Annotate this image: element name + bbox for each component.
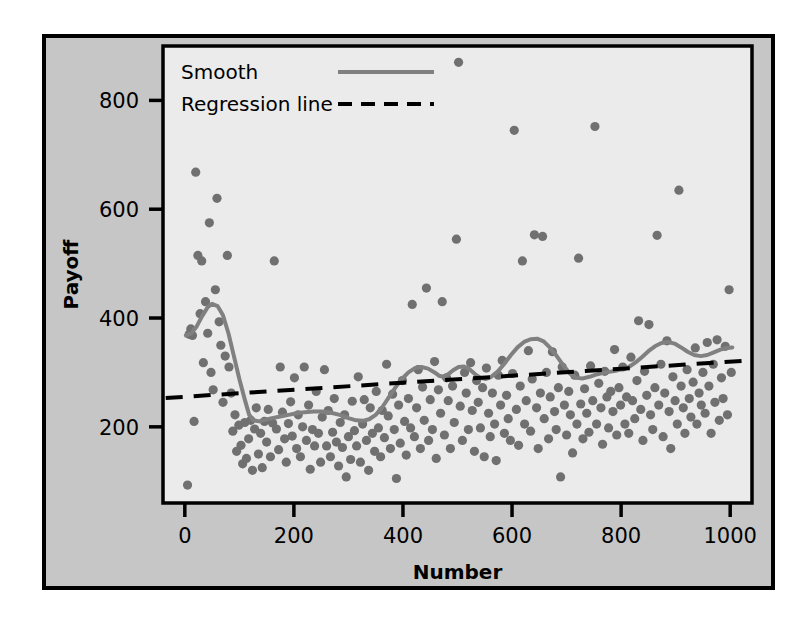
data-point	[550, 407, 559, 416]
data-point	[258, 463, 267, 472]
data-point	[386, 444, 395, 453]
data-point	[496, 400, 505, 409]
data-point	[320, 365, 329, 374]
data-point	[392, 474, 401, 483]
data-point	[306, 465, 315, 474]
data-point	[580, 384, 589, 393]
data-point	[300, 362, 309, 371]
data-point	[628, 396, 637, 405]
data-point	[715, 416, 724, 425]
x-tick-label: 200	[274, 524, 314, 548]
data-point	[522, 396, 531, 405]
data-point	[183, 480, 192, 489]
data-point	[484, 409, 493, 418]
x-tick-label: 400	[383, 524, 423, 548]
data-point	[199, 358, 208, 367]
data-point	[342, 472, 351, 481]
data-point	[701, 409, 710, 418]
data-point	[434, 385, 443, 394]
data-point	[326, 452, 335, 461]
data-point	[552, 425, 561, 434]
data-point	[384, 411, 393, 420]
data-point	[352, 441, 361, 450]
data-point	[620, 420, 629, 429]
data-point	[698, 368, 707, 377]
data-point	[536, 389, 545, 398]
data-point	[191, 168, 200, 177]
data-point	[488, 389, 497, 398]
data-point	[723, 410, 732, 419]
y-axis: 200400600800	[99, 89, 163, 439]
data-point	[248, 466, 257, 475]
data-point	[506, 436, 515, 445]
data-point	[574, 254, 583, 263]
data-point	[402, 451, 411, 460]
data-point	[724, 285, 733, 294]
data-point	[659, 432, 668, 441]
data-point	[546, 392, 555, 401]
data-point	[562, 430, 571, 439]
data-point	[338, 443, 347, 452]
legend-label-1: Regression line	[181, 92, 333, 116]
data-point	[592, 420, 601, 429]
data-point	[502, 391, 511, 400]
data-point	[636, 405, 645, 414]
data-point	[516, 381, 525, 390]
data-point	[520, 420, 529, 429]
data-point	[212, 194, 221, 203]
data-point	[665, 407, 674, 416]
data-point	[360, 395, 369, 404]
x-tick-label: 800	[601, 524, 641, 548]
data-point	[660, 389, 669, 398]
data-point	[418, 383, 427, 392]
data-point	[286, 397, 295, 406]
data-point	[304, 400, 313, 409]
data-point	[372, 387, 381, 396]
data-point	[211, 285, 220, 294]
data-point	[468, 406, 477, 415]
data-point	[346, 455, 355, 464]
data-point	[272, 424, 281, 433]
data-point	[412, 403, 421, 412]
data-point	[638, 436, 647, 445]
data-point	[310, 441, 319, 450]
data-point	[230, 410, 239, 419]
data-point	[604, 423, 613, 432]
data-point	[448, 381, 457, 390]
data-point	[644, 320, 653, 329]
data-point	[354, 372, 363, 381]
data-point	[710, 398, 719, 407]
data-point	[674, 186, 683, 195]
data-point	[203, 329, 212, 338]
data-point	[290, 373, 299, 382]
data-point	[689, 378, 698, 387]
data-point	[454, 58, 463, 67]
data-point	[692, 420, 701, 429]
data-point	[276, 362, 285, 371]
data-point	[642, 391, 651, 400]
data-point	[376, 452, 385, 461]
data-point	[650, 383, 659, 392]
data-point	[679, 403, 688, 412]
data-point	[436, 409, 445, 418]
data-point	[530, 230, 539, 239]
data-point	[582, 409, 591, 418]
data-point	[556, 472, 565, 481]
data-point	[348, 397, 357, 406]
data-point	[406, 423, 415, 432]
data-point	[614, 383, 623, 392]
data-point	[462, 389, 471, 398]
data-point	[316, 458, 325, 467]
data-point	[350, 426, 359, 435]
data-point	[486, 432, 495, 441]
data-point	[697, 400, 706, 409]
data-point	[584, 428, 593, 437]
data-point	[428, 425, 437, 434]
data-point	[334, 461, 343, 470]
data-point	[624, 429, 633, 438]
figure-canvas: 02004006008001000200400600800NumberPayof…	[0, 0, 802, 618]
data-point	[366, 403, 375, 412]
data-point	[416, 444, 425, 453]
data-point	[500, 429, 509, 438]
data-point	[330, 394, 339, 403]
